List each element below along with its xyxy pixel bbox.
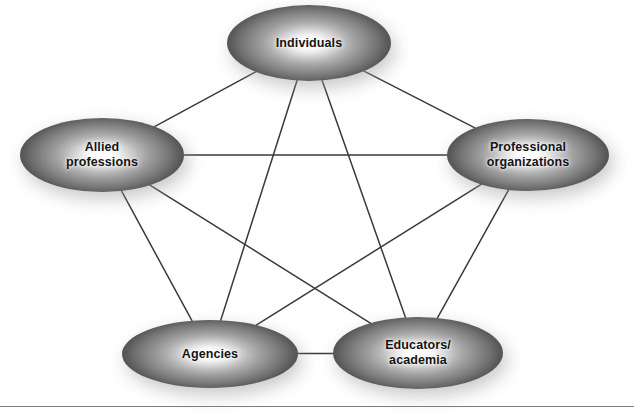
footer-divider [0, 406, 634, 407]
node-individuals[interactable]: Individuals [227, 5, 391, 81]
node-label-professional-organizations: Professional organizations [487, 140, 570, 170]
node-label-individuals: Individuals [276, 36, 342, 51]
node-allied-professions[interactable]: Allied professions [20, 118, 184, 192]
node-label-allied-professions: Allied professions [66, 140, 138, 170]
node-agencies[interactable]: Agencies [122, 320, 298, 388]
node-label-agencies: Agencies [182, 347, 238, 362]
node-educators-academia[interactable]: Educators/ academia [333, 317, 503, 389]
node-label-educators-academia: Educators/ academia [385, 338, 451, 368]
stakeholder-network-figure: IndividualsAllied professionsProfessiona… [0, 0, 634, 416]
node-layer: IndividualsAllied professionsProfessiona… [0, 0, 634, 416]
node-professional-organizations[interactable]: Professional organizations [447, 119, 609, 191]
footer-caption [4, 409, 504, 416]
